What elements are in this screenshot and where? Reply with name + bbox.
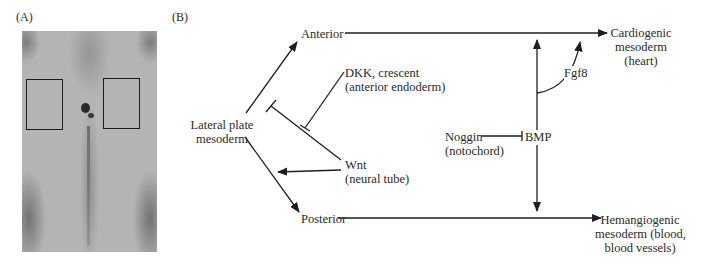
wnt-line1: Wnt [345,158,409,172]
wnt-label: Wnt (neural tube) [345,158,409,186]
noggin-line2: (notochord) [445,144,504,158]
lateral-plate-line2: mesoderm [186,132,258,146]
hemangiogenic-line1: Hemangiogenic [595,213,685,227]
inhibit-dkk-to-wnt [305,72,344,128]
cardiogenic-line3: (heart) [606,54,676,68]
dkk-line1: DKK, crescent [345,66,445,80]
hemangiogenic-mesoderm-label: Hemangiogenic mesoderm (blood, blood ves… [595,213,685,255]
inhibit-bar-wnt [266,100,276,112]
bmp-label: BMP [524,130,552,144]
lateral-plate-line1: Lateral plate [186,118,258,132]
arrow-lateral-to-anterior [246,42,297,113]
cardiogenic-mesoderm-label: Cardiogenic mesoderm (heart) [606,26,676,68]
noggin-line1: Noggin [445,130,504,144]
arrow-wnt-to-posterior [278,170,341,172]
anterior-label: Anterior [301,27,343,41]
hemangiogenic-line2: mesoderm (blood, [595,227,685,241]
cardiogenic-line2: mesoderm [606,40,676,54]
dkk-label: DKK, crescent (anterior endoderm) [345,66,445,94]
dkk-line2: (anterior endoderm) [345,80,445,94]
lateral-plate-mesoderm-label: Lateral plate mesoderm [186,118,258,146]
arrow-lateral-to-posterior [245,137,299,212]
cardiogenic-line1: Cardiogenic [606,26,676,40]
posterior-label: Posterior [301,212,346,226]
wnt-line2: (neural tube) [345,172,409,186]
fgf8-label: Fgf8 [564,66,588,80]
noggin-label: Noggin (notochord) [445,130,504,158]
hemangiogenic-line3: blood vessels) [595,241,685,255]
inhibit-wnt-to-anterior [271,106,341,160]
